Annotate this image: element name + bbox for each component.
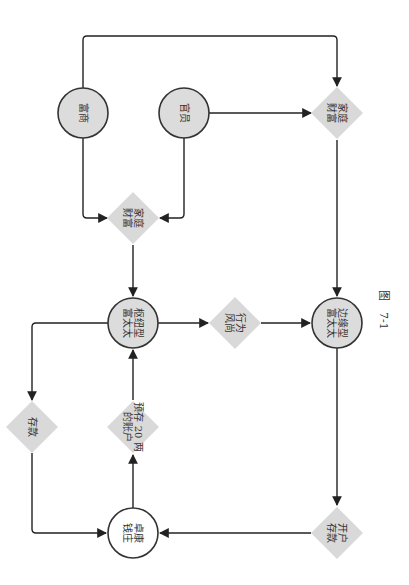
node-label-line: 风尚 bbox=[224, 313, 236, 333]
edge-hub-wife-to-deposit bbox=[32, 323, 108, 400]
node-family-wealth-mid: 家庭财富 bbox=[107, 192, 159, 244]
node-guanyuan: 官员 bbox=[159, 88, 209, 138]
node-label-line: 枢纽型 bbox=[133, 308, 145, 338]
edge-fushang-to-family-wealth-top bbox=[83, 36, 337, 88]
node-edge-wife: 边缘型富太太 bbox=[312, 298, 362, 348]
node-label-line: 富太太 bbox=[326, 308, 338, 338]
node-prepaid-account: 预存 20 两的账户 bbox=[107, 401, 159, 453]
node-label-line: 财富 bbox=[122, 208, 134, 228]
edge-deposit-to-bank bbox=[32, 453, 106, 533]
node-label-line: 卓康 bbox=[133, 523, 145, 543]
node-label-line: 存款 bbox=[27, 417, 39, 437]
node-label-line: 钱庄 bbox=[122, 523, 134, 543]
node-label-line: 行为 bbox=[235, 313, 247, 333]
node-label-line: 富太太 bbox=[122, 308, 134, 338]
edge-guanyuan-to-family-wealth-mid bbox=[160, 138, 184, 218]
node-label-line: 预存 20 两 bbox=[133, 402, 145, 451]
node-label-line: 开户 bbox=[337, 523, 349, 543]
node-label-line: 的账户 bbox=[122, 412, 134, 442]
edge-fushang-to-family-wealth-mid bbox=[83, 138, 107, 218]
node-behavior: 行为风尚 bbox=[209, 297, 261, 349]
node-hub-wife: 枢纽型富太太 bbox=[108, 298, 158, 348]
node-label-line: 富商 bbox=[78, 103, 90, 123]
node-family-wealth-top: 家庭财富 bbox=[311, 87, 363, 139]
node-label-line: 存款 bbox=[326, 523, 338, 543]
node-open-account: 开户存款 bbox=[311, 507, 363, 559]
node-label-line: 家庭 bbox=[337, 103, 349, 123]
figure-caption: 图 7-1 bbox=[377, 290, 390, 330]
node-label-line: 边缘型 bbox=[337, 308, 349, 338]
node-label-line: 官员 bbox=[179, 103, 191, 123]
node-label-line: 家庭 bbox=[133, 208, 145, 228]
node-deposit: 存款 bbox=[6, 401, 58, 453]
node-fushang: 富商 bbox=[58, 88, 108, 138]
node-label-line: 财富 bbox=[326, 103, 338, 123]
flow-diagram: 富商官员家庭财富家庭财富枢纽型富太太行为风尚边缘型富太太存款预存 20 两的账户… bbox=[0, 0, 409, 585]
node-bank: 卓康钱庄 bbox=[108, 508, 158, 558]
